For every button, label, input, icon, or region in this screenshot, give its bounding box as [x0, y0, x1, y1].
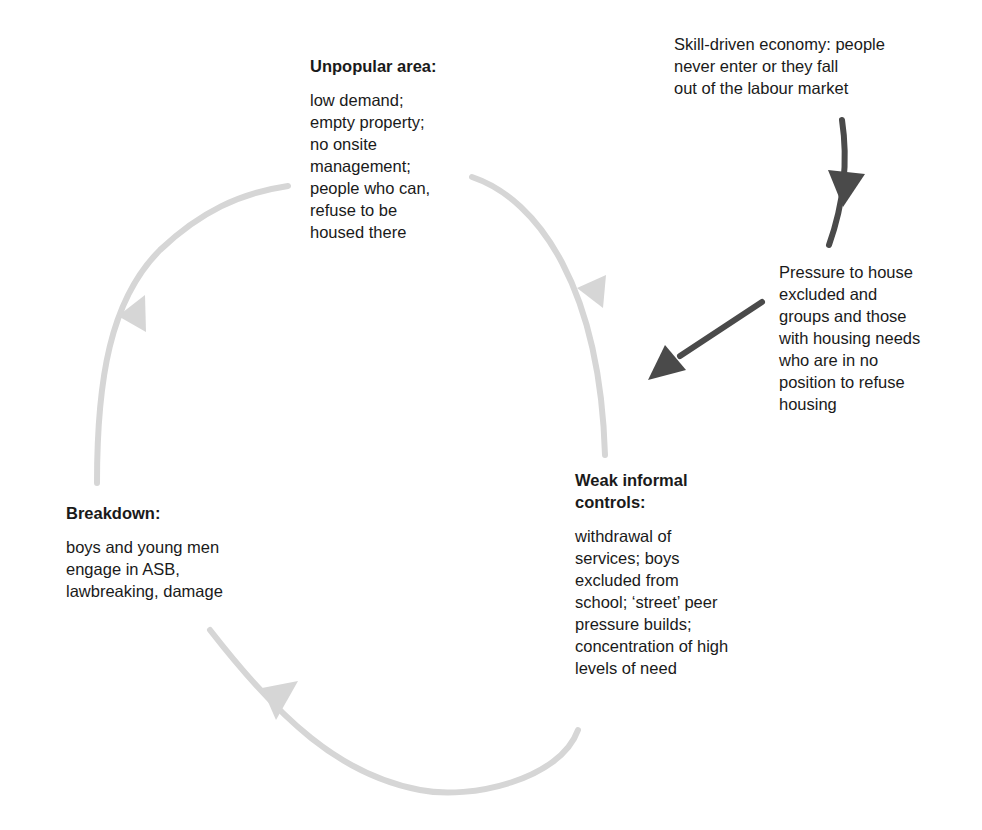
cycle-arrow-breakdown-to-unpopular	[97, 186, 288, 483]
arrowhead-icon	[828, 170, 865, 207]
external-driver-pressure: Pressure to house excluded and groups an…	[779, 261, 979, 415]
node-body: boys and young men engage in ASB, lawbre…	[66, 536, 286, 602]
node-weak-informal-controls: Weak informal controls: withdrawal of se…	[575, 469, 785, 679]
node-title: Weak informal controls:	[575, 469, 785, 513]
node-unpopular-area: Unpopular area: low demand; empty proper…	[310, 55, 490, 243]
node-body: low demand; empty property; no onsite ma…	[310, 89, 490, 243]
node-breakdown: Breakdown: boys and young men engage in …	[66, 502, 286, 602]
node-title: Unpopular area:	[310, 55, 490, 77]
driver-arrow-economy-to-pressure	[828, 120, 865, 245]
node-title: Breakdown:	[66, 502, 286, 524]
external-driver-economy: Skill-driven economy: people never enter…	[674, 33, 964, 99]
arrowhead-icon	[648, 345, 686, 380]
arrows-layer	[0, 0, 982, 830]
cycle-arrow-weak-to-breakdown	[210, 630, 578, 793]
node-body: withdrawal of services; boys excluded fr…	[575, 525, 785, 679]
driver-arrow-pressure-to-weak	[648, 302, 762, 380]
cycle-arrow-unpopular-to-weak	[472, 177, 606, 455]
